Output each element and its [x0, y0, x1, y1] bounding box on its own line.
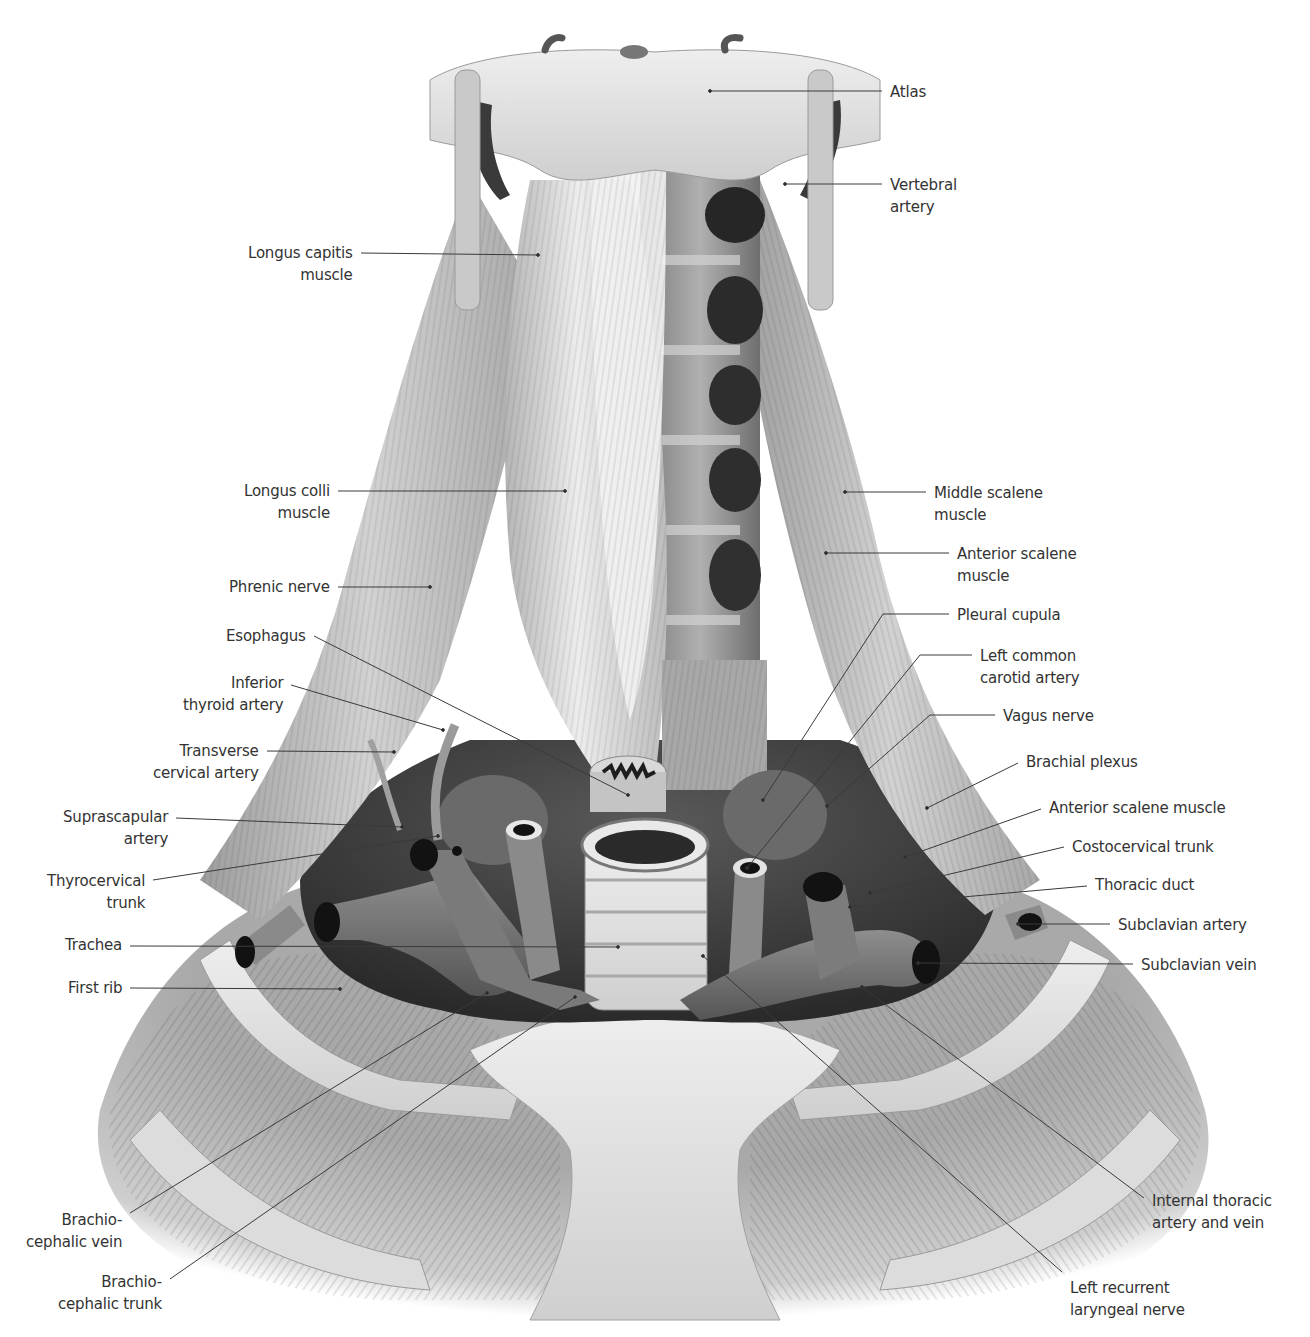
label-line: Brachial plexus: [1026, 751, 1138, 773]
label-line: muscle: [248, 264, 353, 286]
label-atlas: Atlas: [890, 81, 926, 103]
label-line: Atlas: [890, 81, 926, 103]
label-line: Vagus nerve: [1003, 705, 1094, 727]
label-line: cephalic trunk: [58, 1293, 162, 1315]
label-line: Thoracic duct: [1095, 874, 1194, 896]
label-esophagus: Esophagus: [226, 625, 306, 647]
trachea-shape: [582, 819, 708, 1010]
label-anterior-scalene-muscle: Anterior scalene muscle: [1049, 797, 1225, 819]
anatomical-illustration: [0, 0, 1310, 1337]
label-line: Anterior scalene muscle: [1049, 797, 1225, 819]
label-longus-colli: Longus collimuscle: [244, 480, 330, 524]
label-line: Suprascapular: [63, 806, 168, 828]
label-line: Subclavian artery: [1118, 914, 1247, 936]
label-line: Brachio-: [26, 1209, 122, 1231]
label-anterior-scalene-muscle-upper: Anterior scalenemuscle: [957, 543, 1077, 587]
label-trachea: Trachea: [65, 934, 122, 956]
label-first-rib: First rib: [68, 977, 122, 999]
label-subclavian-artery: Subclavian artery: [1118, 914, 1247, 936]
label-pleural-cupula: Pleural cupula: [957, 604, 1061, 626]
label-line: Trachea: [65, 934, 122, 956]
label-line: Longus capitis: [248, 242, 353, 264]
label-longus-capitis: Longus capitismuscle: [248, 242, 353, 286]
label-internal-thoracic-artery-vein: Internal thoracicartery and vein: [1152, 1190, 1272, 1234]
label-line: muscle: [934, 504, 1043, 526]
label-line: Transverse: [153, 740, 259, 762]
label-line: laryngeal nerve: [1070, 1299, 1185, 1321]
esophagus-shape: [590, 756, 666, 812]
label-line: muscle: [244, 502, 330, 524]
label-vagus-nerve: Vagus nerve: [1003, 705, 1094, 727]
label-line: cephalic vein: [26, 1231, 122, 1253]
label-middle-scalene-muscle: Middle scalenemuscle: [934, 482, 1043, 526]
label-line: artery and vein: [1152, 1212, 1272, 1234]
label-line: Costocervical trunk: [1072, 836, 1214, 858]
label-suprascapular-artery: Suprascapularartery: [63, 806, 168, 850]
label-line: thyroid artery: [183, 694, 283, 716]
label-left-common-carotid-artery: Left commoncarotid artery: [980, 645, 1080, 689]
label-line: Thyrocervical: [47, 870, 145, 892]
label-brachiocephalic-vein: Brachio-cephalic vein: [26, 1209, 122, 1253]
label-line: artery: [63, 828, 168, 850]
label-line: Internal thoracic: [1152, 1190, 1272, 1212]
label-line: carotid artery: [980, 667, 1080, 689]
label-line: Anterior scalene: [957, 543, 1077, 565]
label-inferior-thyroid-artery: Inferiorthyroid artery: [183, 672, 283, 716]
label-line: Left common: [980, 645, 1080, 667]
label-brachial-plexus: Brachial plexus: [1026, 751, 1138, 773]
label-line: Subclavian vein: [1141, 954, 1256, 976]
label-subclavian-vein: Subclavian vein: [1141, 954, 1256, 976]
label-brachiocephalic-trunk: Brachio-cephalic trunk: [58, 1271, 162, 1315]
label-line: First rib: [68, 977, 122, 999]
label-line: Esophagus: [226, 625, 306, 647]
label-line: Inferior: [183, 672, 283, 694]
label-line: Brachio-: [58, 1271, 162, 1293]
label-line: cervical artery: [153, 762, 259, 784]
label-line: muscle: [957, 565, 1077, 587]
label-line: trunk: [47, 892, 145, 914]
label-thyrocervical-trunk: Thyrocervicaltrunk: [47, 870, 145, 914]
label-thoracic-duct: Thoracic duct: [1095, 874, 1194, 896]
label-transverse-cervical-artery: Transversecervical artery: [153, 740, 259, 784]
label-line: Left recurrent: [1070, 1277, 1185, 1299]
label-line: Phrenic nerve: [229, 576, 330, 598]
label-line: Longus colli: [244, 480, 330, 502]
label-line: Vertebral: [890, 174, 957, 196]
label-line: artery: [890, 196, 957, 218]
label-phrenic-nerve: Phrenic nerve: [229, 576, 330, 598]
label-vertebral-artery: Vertebralartery: [890, 174, 957, 218]
label-line: Pleural cupula: [957, 604, 1061, 626]
label-line: Middle scalene: [934, 482, 1043, 504]
label-costocervical-trunk: Costocervical trunk: [1072, 836, 1214, 858]
label-left-recurrent-laryngeal-nerve: Left recurrentlaryngeal nerve: [1070, 1277, 1185, 1321]
